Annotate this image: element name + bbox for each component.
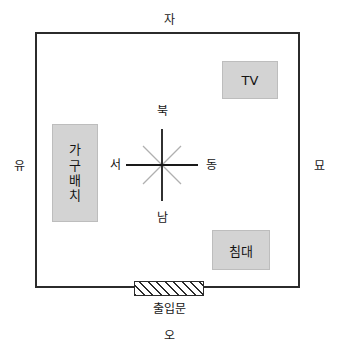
zodiac-marker-top: 자: [0, 14, 338, 26]
entrance-door: [134, 281, 204, 296]
compass-label-south: 남: [146, 212, 178, 224]
furniture-arrangement-char-3: 배: [69, 173, 81, 188]
floor-plan-diagram: 자 유 묘 오 TV 침대 가 구 배 치 북 남 서 동: [0, 0, 338, 357]
entrance-door-label: 출입문: [109, 303, 229, 315]
zodiac-marker-bottom: 오: [0, 330, 338, 342]
furniture-arrangement-char-4: 치: [69, 188, 81, 203]
furniture-arrangement-char-2: 구: [69, 158, 81, 173]
furniture-bed: 침대: [212, 230, 270, 270]
furniture-tv-label: TV: [242, 73, 259, 88]
compass-label-east: 동: [200, 159, 222, 171]
furniture-arrangement-char-1: 가: [69, 142, 81, 157]
furniture-bed-label: 침대: [229, 241, 253, 260]
zodiac-marker-right: 묘: [308, 160, 330, 172]
compass-label-north: 북: [146, 105, 178, 117]
zodiac-marker-left: 유: [8, 160, 30, 172]
furniture-tv: TV: [222, 61, 278, 99]
compass-rose-icon: [126, 129, 198, 201]
furniture-arrangement-block: 가 구 배 치: [52, 124, 98, 222]
compass-label-west: 서: [104, 159, 126, 171]
